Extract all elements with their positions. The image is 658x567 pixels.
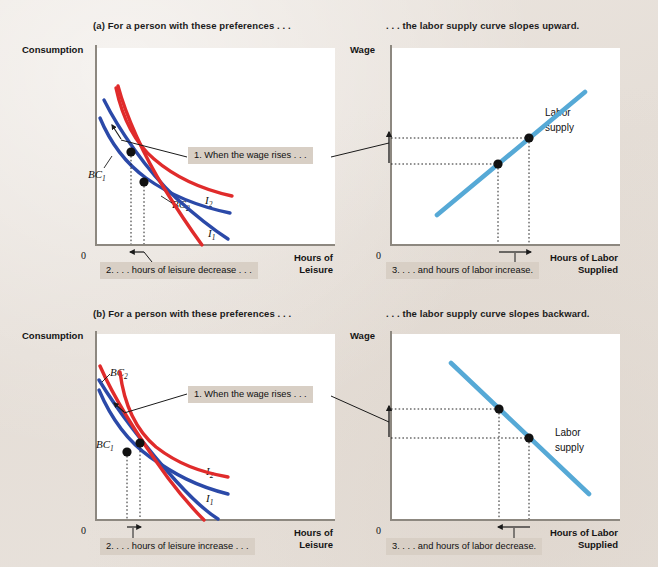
panel-b-right-x-axis-label-line2: Supplied [530,539,618,551]
panel-b-callout-3: 3. . . . and hours of labor decrease. [386,538,542,555]
panel-b-right-title: . . . the labor supply curve slopes back… [386,308,590,319]
panel-b-right-origin-label: 0 [376,525,381,536]
panel-b-right-x-axis [390,519,620,521]
panel-b-left-x-axis-label-line1: Hours of [255,527,333,539]
panel-a-labor-supply-plot [392,48,620,245]
panel-b-left-origin-label: 0 [81,525,86,536]
panel-a-callout-1-leader-right [331,143,389,157]
panel-a-right-y-axis-label: Wage [350,44,375,56]
panel-b-i1-label: I1 [206,492,213,507]
panel-b-i2-label: I2 [206,465,213,480]
panel-a-i1-label: I1 [208,227,215,242]
panel-b-callout-2: 2. . . . hours of leisure increase . . . [100,538,255,555]
panel-b-left-y-axis-label: Consumption [22,330,83,342]
panel-a-left-x-axis-label-line1: Hours of [255,252,333,264]
panel-a-right-x-axis-label-line2: Supplied [530,264,618,276]
panel-a-callout-2: 2. . . . hours of leisure decrease . . . [100,262,258,279]
panel-a-bc1-text: BC [88,168,102,180]
panel-a-right-title: . . . the labor supply curve slopes upwa… [386,20,579,31]
panel-a-left-origin-label: 0 [81,250,86,261]
panel-a-bc2-label: BC2 [172,198,190,213]
panel-b-indifference-plot [97,334,335,520]
panel-a-bc1-label: BC1 [88,168,106,183]
panel-b-supply-label-line1: Labor [555,426,581,439]
panel-a-callout-1: 1. When the wage rises . . . [188,147,313,164]
panel-a-callout-2-leader [144,252,152,262]
panel-b-bc2-text: BC [110,366,124,378]
panel-a-right-x-axis [390,244,620,246]
panel-a-supply-label-line2: supply [545,121,574,134]
panel-a-left-y-axis-label: Consumption [22,44,83,56]
panel-b-left-x-axis-label-line2: Leisure [255,539,333,551]
panel-b-left-x-axis [95,519,335,521]
panel-b-i2-sub: 2 [210,471,214,480]
panel-b-callout-1: 1. When the wage rises . . . [188,386,313,403]
panel-b-callout-1-leader-right [331,396,389,422]
panel-b-left-y-axis [95,331,97,521]
figure-root: (a) For a person with these preferences … [0,0,658,567]
panel-b-bc1-text: BC [96,438,110,450]
panel-a-bc1-sub: 1 [102,174,106,183]
panel-a-i1-sub: 1 [212,233,216,242]
panel-a-left-y-axis [95,45,97,246]
panel-a-callout-3: 3. . . . and hours of labor increase. [386,262,539,279]
panel-b-i1-sub: 1 [210,498,214,507]
panel-a-bc2-text: BC [172,198,186,210]
panel-a-right-y-axis [390,45,392,246]
panel-b-right-x-axis-label-line1: Hours of Labor [530,527,618,539]
panel-a-right-origin-label: 0 [376,250,381,261]
panel-b-supply-label-line2: supply [555,441,584,454]
panel-a-i2-sub: 2 [209,200,213,209]
panel-b-left-title: (b) For a person with these preferences … [93,308,291,319]
panel-a-supply-label-line1: Labor [545,106,571,119]
panel-b-bc2-sub: 2 [124,372,128,381]
panel-b-right-y-axis-label: Wage [350,330,375,342]
panel-b-bc1-sub: 1 [110,444,114,453]
panel-b-right-y-axis [390,331,392,521]
panel-a-right-x-axis-label-line1: Hours of Labor [530,252,618,264]
panel-a-left-x-axis [95,244,335,246]
panel-b-labor-supply-plot [392,334,620,520]
panel-a-i2-label: I2 [205,194,212,209]
panel-a-left-title: (a) For a person with these preferences … [93,20,291,31]
panel-a-bc2-sub: 2 [186,204,190,213]
panel-b-bc2-label: BC2 [110,366,128,381]
panel-b-bc1-label: BC1 [96,438,114,453]
panel-a-left-x-axis-label-line2: Leisure [255,264,333,276]
